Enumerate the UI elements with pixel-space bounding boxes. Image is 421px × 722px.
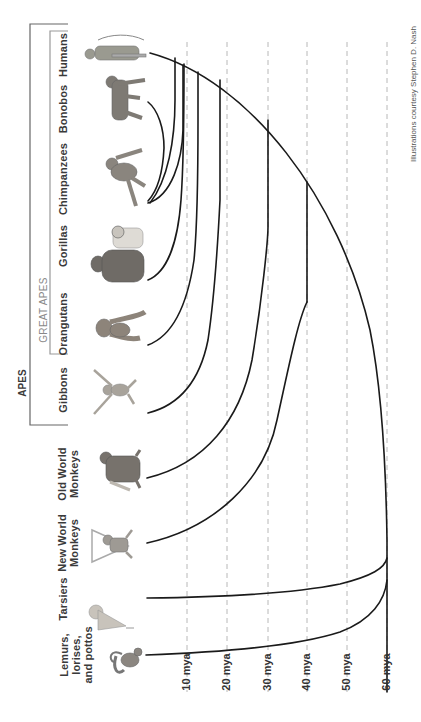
tick-50mya: 50 mya: [340, 650, 354, 694]
branch-tarsiers: [147, 558, 387, 598]
great-apes-label: GREAT APES: [38, 275, 52, 345]
phylogeny-lines: [146, 53, 387, 692]
label-gibbons: Gibbons: [57, 355, 69, 425]
label-old-world-monkeys: Old WorldMonkeys: [56, 439, 82, 509]
tick-10mya: 10 mya: [180, 650, 194, 694]
time-gridlines: [187, 42, 387, 692]
tick-20mya: 20 mya: [220, 650, 234, 694]
tick-30mya: 30 mya: [261, 650, 275, 694]
tick-40mya: 40 mya: [300, 650, 314, 694]
label-orangutans: Orangutans: [57, 286, 69, 362]
illustration-credit: Illustrations courtesy Stephen D. Nash: [409, 9, 421, 179]
label-gorillas: Gorillas: [57, 211, 69, 281]
tick-60mya: 60 mya: [380, 650, 394, 694]
pan-clade-bonobos-chimps: [148, 102, 164, 201]
branch-lemurs: [146, 580, 387, 655]
label-lemurs-lorises-pottos: Lemurs,lorises,and pottos: [58, 620, 96, 690]
apes-label: APES: [17, 353, 31, 413]
branch-orangutans: [148, 72, 198, 345]
branch-chimpanzees-stem: [148, 65, 183, 203]
